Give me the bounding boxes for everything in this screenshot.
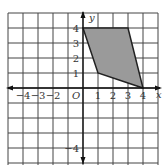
- y-tick-label: 2: [73, 53, 79, 64]
- y-tick-label: 4: [73, 23, 79, 34]
- coordinate-grid: −4−3−212344321−4 x y O: [0, 0, 165, 165]
- x-tick-label: −3: [31, 90, 46, 101]
- y-tick-label: 1: [73, 68, 79, 79]
- x-axis-label: x: [156, 89, 162, 100]
- axes: [6, 11, 162, 164]
- x-tick-label: 2: [110, 90, 116, 101]
- origin-label: O: [72, 90, 80, 101]
- x-tick-label: −4: [16, 90, 31, 101]
- x-tick-label: −2: [46, 90, 61, 101]
- y-tick-label: −4: [64, 143, 79, 154]
- y-axis-label: y: [88, 12, 95, 23]
- x-tick-label: 1: [95, 90, 101, 101]
- x-tick-label: 4: [140, 90, 146, 101]
- x-tick-label: 3: [125, 90, 131, 101]
- y-tick-label: 3: [73, 38, 79, 49]
- x-axis-arrow-left-icon: [6, 86, 13, 91]
- y-axis-arrow-up-icon: [81, 11, 86, 18]
